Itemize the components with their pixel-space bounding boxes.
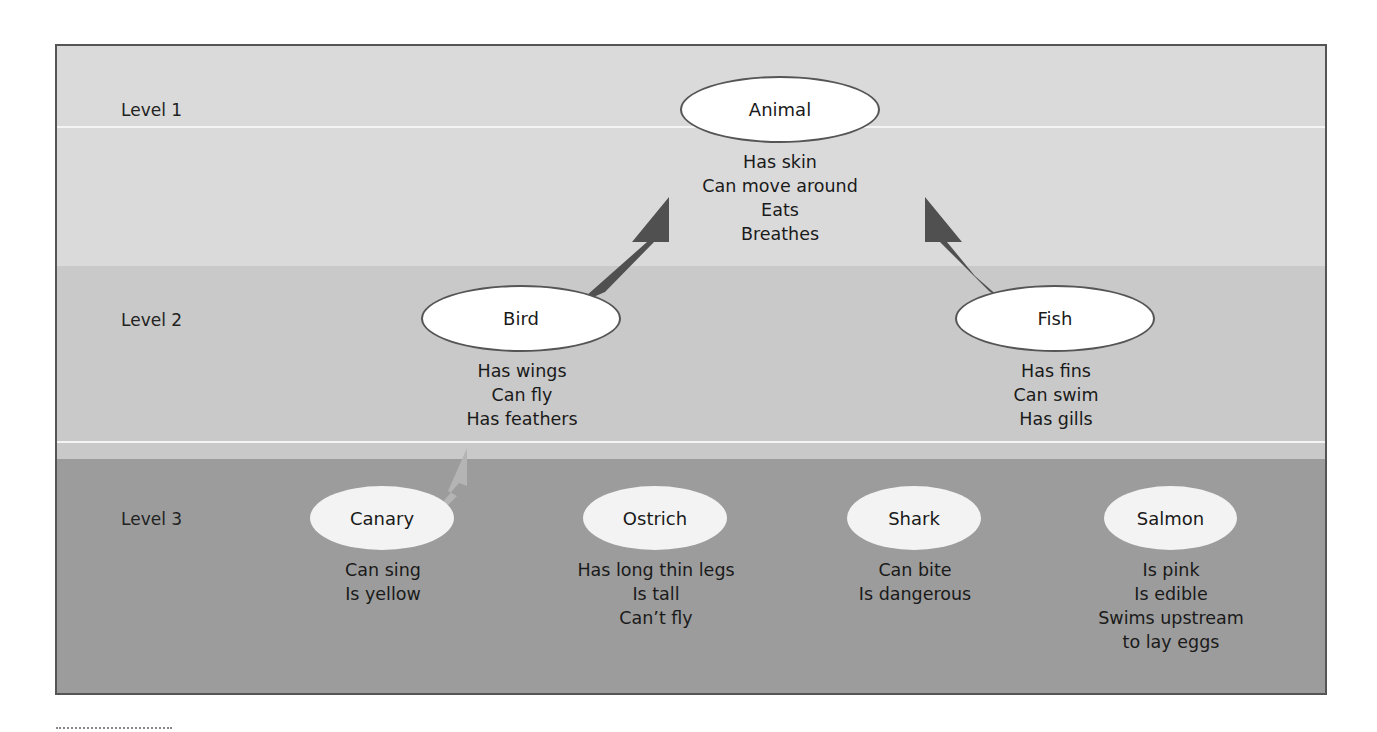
property: Can move around [702,174,858,198]
node-salmon: Salmon [1104,486,1237,550]
node-animal: Animal [680,76,880,143]
property: Can swim [1014,383,1099,407]
animal-properties: Has skin Can move around Eats Breathes [702,150,858,246]
property: Can fly [466,383,577,407]
node-shark-label: Shark [888,508,940,529]
property: Can’t fly [577,606,734,630]
node-bird: Bird [421,285,621,352]
ostrich-properties: Has long thin legs Is tall Can’t fly [577,558,734,630]
property: Swims upstream [1098,606,1244,630]
property: to lay eggs [1098,630,1244,654]
property: Breathes [702,222,858,246]
property: Has feathers [466,407,577,431]
node-canary: Canary [310,486,454,550]
property: Is yellow [345,582,421,606]
property: Is dangerous [859,582,971,606]
node-shark: Shark [847,486,981,550]
dotted-rule [56,727,172,729]
property: Can bite [859,558,971,582]
property: Has skin [702,150,858,174]
bird-properties: Has wings Can fly Has feathers [466,359,577,431]
property: Has fins [1014,359,1099,383]
property: Eats [702,198,858,222]
salmon-properties: Is pink Is edible Swims upstream to lay … [1098,558,1244,654]
property: Has wings [466,359,577,383]
node-animal-label: Animal [749,99,811,120]
node-ostrich-label: Ostrich [623,508,687,529]
property: Can sing [345,558,421,582]
node-ostrich: Ostrich [583,486,727,550]
arrow-bird-to-animal [577,197,669,304]
property: Has gills [1014,407,1099,431]
arrow-fish-to-animal [925,197,1007,304]
node-fish-label: Fish [1038,308,1073,329]
node-salmon-label: Salmon [1137,508,1204,529]
shark-properties: Can bite Is dangerous [859,558,971,606]
node-fish: Fish [955,285,1155,352]
canary-properties: Can sing Is yellow [345,558,421,606]
property: Is edible [1098,582,1244,606]
property: Is pink [1098,558,1244,582]
node-canary-label: Canary [350,508,414,529]
property: Is tall [577,582,734,606]
fish-properties: Has fins Can swim Has gills [1014,359,1099,431]
node-bird-label: Bird [503,308,539,329]
property: Has long thin legs [577,558,734,582]
